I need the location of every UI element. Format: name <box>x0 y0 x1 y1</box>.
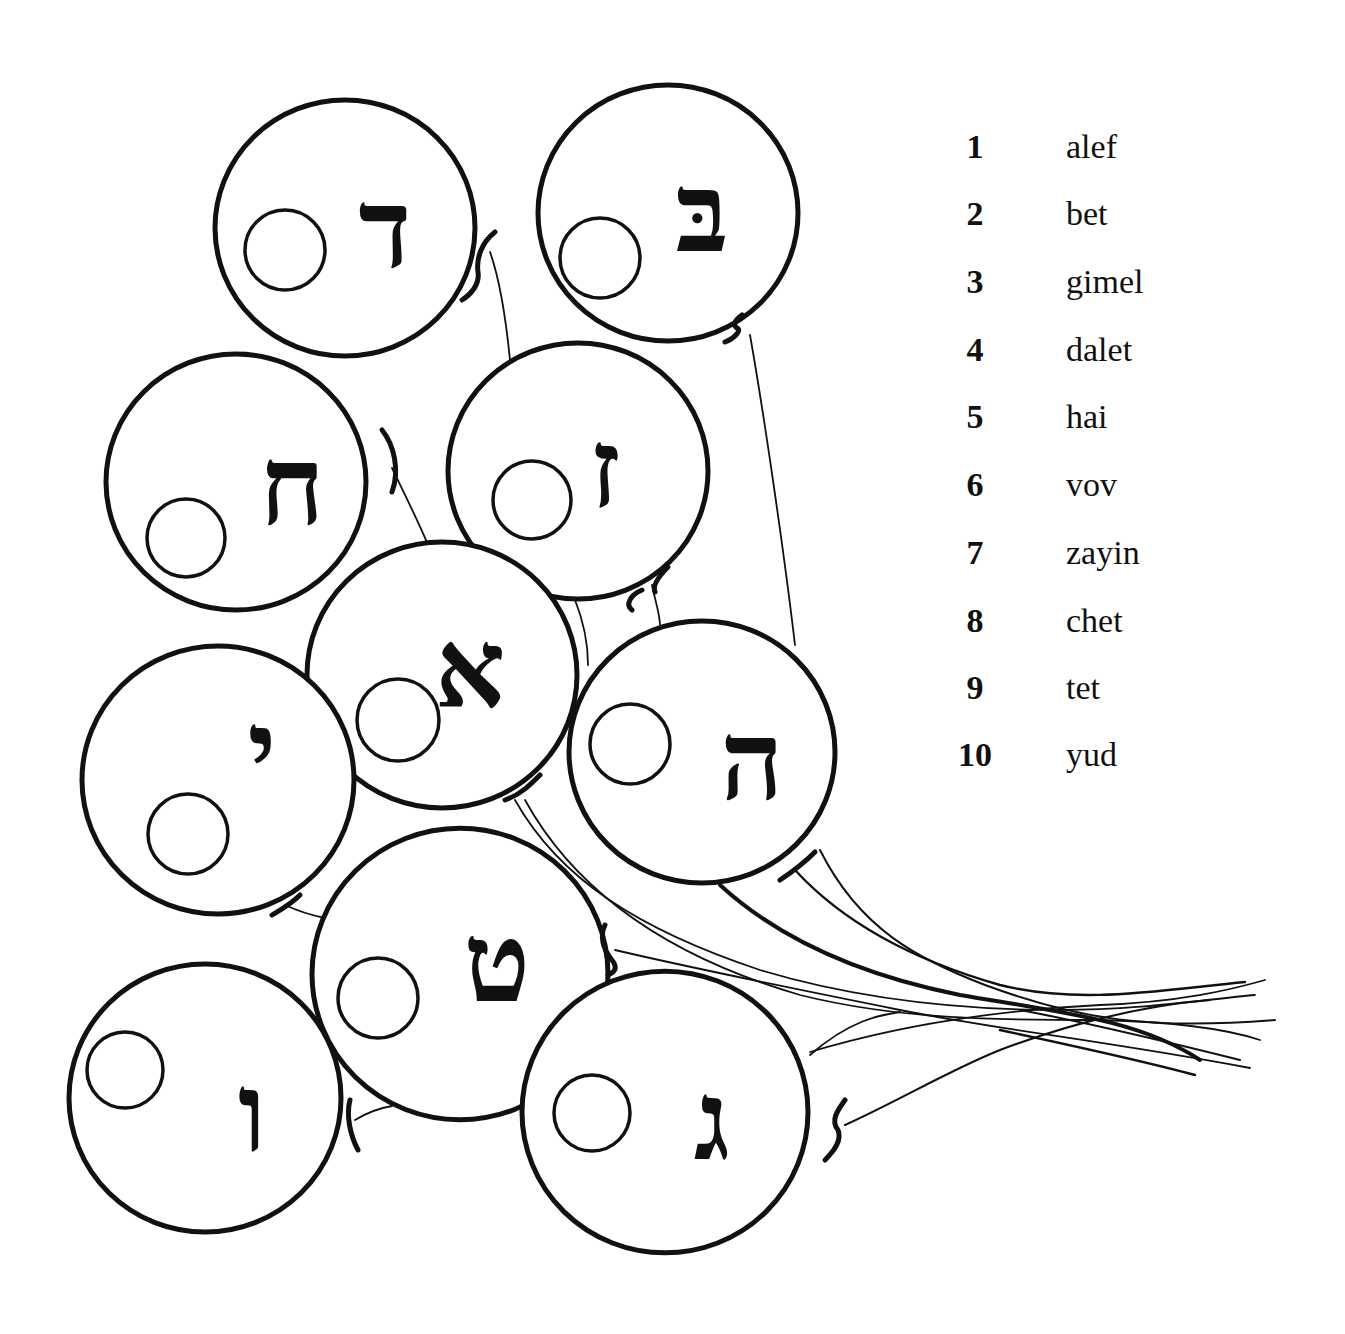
legend-number: 10 <box>950 732 1000 778</box>
legend-letter-name: gimel <box>1066 259 1143 305</box>
balloon-hai: ה <box>569 621 835 883</box>
hebrew-letter-vov: ו <box>238 1048 266 1177</box>
legend-row: 10 yud <box>950 732 1210 782</box>
string-vov <box>355 1106 392 1120</box>
legend-number: 5 <box>950 394 1000 440</box>
knot-vov <box>348 1100 358 1150</box>
legend-number: 4 <box>950 327 1000 373</box>
balloon-yud: י <box>82 646 354 914</box>
legend-row: 8 chet <box>950 598 1210 648</box>
hebrew-letter-gimel: ג <box>694 1056 730 1185</box>
knot-gimel <box>825 1100 845 1160</box>
balloon-outline <box>522 971 808 1253</box>
hebrew-letter-alef: א <box>435 604 506 733</box>
legend-letter-name: tet <box>1066 665 1100 711</box>
hebrew-letter-zayin: ז <box>590 404 621 533</box>
balloon-vov: ו <box>69 964 341 1232</box>
balloon-outline <box>82 646 354 914</box>
legend-row: 6 vov <box>950 462 1210 512</box>
legend-row: 3 gimel <box>950 259 1210 309</box>
legend-letter-name: vov <box>1066 462 1117 508</box>
legend-letter-name: alef <box>1066 124 1117 170</box>
legend-row: 1 alef <box>950 124 1210 174</box>
legend-row: 2 bet <box>950 191 1210 241</box>
hebrew-letter-tet: ט <box>464 898 530 1027</box>
legend-number: 1 <box>950 124 1000 170</box>
balloon-outline <box>215 100 475 356</box>
balloon-outline <box>569 621 835 883</box>
balloon-chet: ח <box>106 354 366 610</box>
string-hai-1 <box>795 870 1245 995</box>
legend-number: 8 <box>950 598 1000 644</box>
hebrew-letter-chet: ח <box>259 421 324 550</box>
balloon-outline <box>106 354 366 610</box>
legend-row: 4 dalet <box>950 327 1210 377</box>
legend-number: 7 <box>950 530 1000 576</box>
balloon-outline <box>69 964 341 1232</box>
hebrew-letter-hai: ה <box>720 696 783 825</box>
legend-row: 5 hai <box>950 394 1210 444</box>
string-dalet <box>490 252 510 360</box>
legend-number: 9 <box>950 665 1000 711</box>
balloon-gimel: ג <box>522 971 808 1253</box>
hebrew-letter-dalet: ד <box>359 164 412 293</box>
legend-row: 9 tet <box>950 665 1210 715</box>
hebrew-letter-bet: בּ <box>675 148 728 277</box>
legend-letter-name: zayin <box>1066 530 1140 576</box>
string-yud <box>285 905 325 918</box>
knot-chet <box>382 430 396 492</box>
string-bet <box>750 335 795 645</box>
legend-letter-name: hai <box>1066 394 1108 440</box>
legend-letter-name: chet <box>1066 598 1123 644</box>
legend-row: 7 zayin <box>950 530 1210 580</box>
balloon-outline <box>538 85 798 341</box>
legend-letter-name: bet <box>1066 191 1108 237</box>
balloons-group: דבּחזאיהטוג <box>69 85 835 1253</box>
balloon-dalet: ד <box>215 100 475 356</box>
legend-letter-name: yud <box>1066 732 1117 778</box>
balloon-bet: בּ <box>538 85 798 341</box>
legend-number: 3 <box>950 259 1000 305</box>
legend-number: 6 <box>950 462 1000 508</box>
legend-letter-name: dalet <box>1066 327 1132 373</box>
hebrew-letter-yud: י <box>248 686 277 815</box>
legend-number: 2 <box>950 191 1000 237</box>
